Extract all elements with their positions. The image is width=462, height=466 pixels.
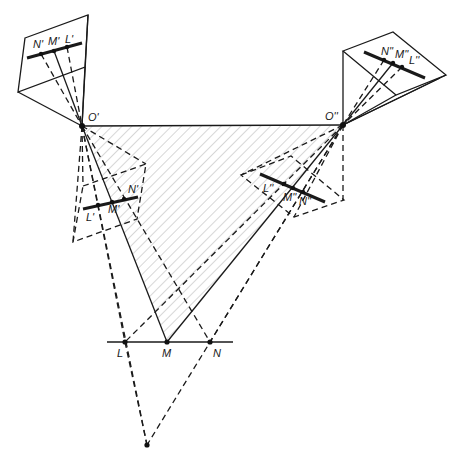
point-intersection-bottom — [144, 442, 149, 447]
camera-2-pyramid: N'' M'' L'' — [343, 32, 446, 125]
label-L1-top: L' — [65, 33, 74, 45]
label-N2-top: N'' — [381, 45, 394, 57]
label-L2-top: L'' — [409, 54, 420, 66]
label-L1-low: L' — [86, 211, 95, 223]
label-M2-top: M'' — [395, 48, 409, 60]
point-M — [164, 339, 169, 344]
label-O2: O'' — [325, 110, 339, 122]
shaded-plane — [82, 125, 343, 342]
point-N — [207, 339, 212, 344]
label-L2-low: L'' — [263, 182, 274, 194]
stereo-projection-diagram: N' M' L' N'' M'' L'' L' M' N' — [0, 0, 462, 466]
ray-L-bottom — [125, 342, 147, 445]
label-M1-top: M' — [48, 35, 60, 47]
diagram-canvas: N' M' L' N'' M'' L'' L' M' N' — [0, 0, 462, 466]
label-M1-low: M' — [108, 203, 120, 215]
label-N2-low: N'' — [299, 195, 312, 207]
label-L: L — [117, 347, 123, 359]
camera-1-pyramid: N' M' L' — [18, 15, 88, 126]
label-N: N — [213, 347, 221, 359]
label-N1-low: N' — [128, 183, 139, 195]
label-O1: O' — [88, 111, 100, 123]
center-O2 — [340, 122, 346, 128]
point-L — [122, 339, 127, 344]
label-M: M — [162, 347, 172, 359]
center-O1 — [79, 123, 85, 129]
label-N1-top: N' — [33, 38, 44, 50]
label-M2-low: M'' — [283, 191, 297, 203]
